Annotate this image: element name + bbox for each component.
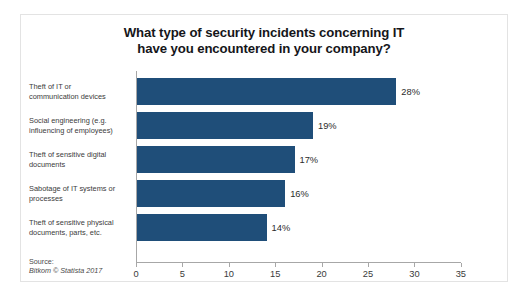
category-label-line-2: communication devices	[29, 92, 133, 102]
x-axis-tick	[182, 263, 183, 267]
category-label: Theft of sensitive physical documents, p…	[29, 218, 133, 237]
category-label-line-1: Theft of IT or	[29, 82, 133, 92]
source-attribution: Source: Bitkom © Statista 2017	[29, 257, 102, 276]
category-label: Sabotage of IT systems or processes	[29, 184, 133, 203]
category-label-line-1: Sabotage of IT systems or	[29, 184, 133, 194]
chart-title-line-1: What type of security incidents concerni…	[21, 25, 507, 41]
x-axis-tick-label: 25	[363, 269, 373, 279]
x-axis-tick-label: 15	[270, 269, 280, 279]
category-label: Social engineering (e.g. influencing of …	[29, 116, 133, 135]
category-label-line-2: documents	[29, 160, 133, 170]
bar-value-label: 14%	[272, 223, 291, 233]
category-label-line-2: influencing of employees)	[29, 126, 133, 136]
bar-value-label: 19%	[318, 121, 337, 131]
bar-row: Theft of IT or communication devices 28%	[21, 75, 509, 109]
x-axis-tick-label: 5	[180, 269, 185, 279]
x-axis-tick	[275, 263, 276, 267]
x-axis-tick-label: 20	[316, 269, 326, 279]
category-label-line-2: documents, parts, etc.	[29, 228, 133, 238]
bar-row: Sabotage of IT systems or processes 16%	[21, 177, 509, 211]
chart-title-line-2: have you encountered in your company?	[21, 41, 507, 57]
x-axis-tick	[414, 263, 415, 267]
chart-title: What type of security incidents concerni…	[21, 25, 507, 56]
x-axis-tick-label: 30	[409, 269, 419, 279]
x-axis-tick	[136, 263, 137, 267]
source-label: Source:	[29, 257, 102, 266]
category-label-line-1: Theft of sensitive digital	[29, 150, 133, 160]
x-axis-tick-label: 35	[456, 269, 466, 279]
x-axis-tick-label: 0	[133, 269, 138, 279]
x-axis-tick-label: 10	[224, 269, 234, 279]
bar-value-label: 16%	[290, 189, 309, 199]
category-label: Theft of sensitive digital documents	[29, 150, 133, 169]
plot-area: Theft of IT or communication devices 28%…	[21, 75, 509, 255]
bar-value-label: 28%	[401, 87, 420, 97]
category-label-line-2: processes	[29, 194, 133, 204]
x-axis-tick	[229, 263, 230, 267]
bar[interactable]	[137, 146, 295, 173]
chart-screenshot: What type of security incidents concerni…	[0, 0, 528, 301]
bar[interactable]	[137, 214, 267, 241]
bar[interactable]	[137, 78, 396, 105]
x-axis-tick	[322, 263, 323, 267]
x-axis-line	[136, 262, 461, 263]
bar-value-label: 17%	[300, 155, 319, 165]
x-axis-tick	[461, 263, 462, 267]
category-label-line-1: Social engineering (e.g.	[29, 116, 133, 126]
bar-row: Theft of sensitive physical documents, p…	[21, 211, 509, 245]
category-label-line-1: Theft of sensitive physical	[29, 218, 133, 228]
category-label: Theft of IT or communication devices	[29, 82, 133, 101]
bar-row: Theft of sensitive digital documents 17%	[21, 143, 509, 177]
source-credit: Bitkom © Statista 2017	[29, 266, 102, 275]
bar[interactable]	[137, 112, 313, 139]
y-axis-line	[136, 71, 137, 263]
x-axis-tick	[368, 263, 369, 267]
bar-row: Social engineering (e.g. influencing of …	[21, 109, 509, 143]
chart-panel: What type of security incidents concerni…	[20, 14, 508, 282]
bar[interactable]	[137, 180, 285, 207]
